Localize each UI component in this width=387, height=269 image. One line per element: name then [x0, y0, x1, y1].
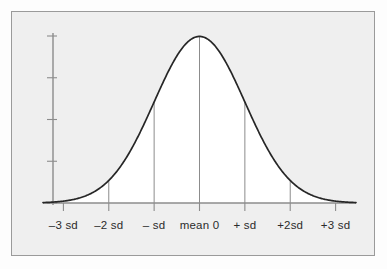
figure-root: –3 sd–2 sd– sdmean 0+ sd+2sd+3 sd	[0, 0, 387, 269]
x-axis-tick-label: –3 sd	[49, 219, 78, 232]
x-axis-tick-label: +2sd	[277, 219, 303, 232]
x-axis-tick-label: +3 sd	[321, 219, 350, 232]
x-axis-tick-label: –2 sd	[94, 219, 123, 232]
x-axis-tick-label: mean 0	[180, 219, 220, 232]
x-axis-tick-label: – sd	[143, 219, 166, 232]
x-axis-tick-label: + sd	[233, 219, 256, 232]
